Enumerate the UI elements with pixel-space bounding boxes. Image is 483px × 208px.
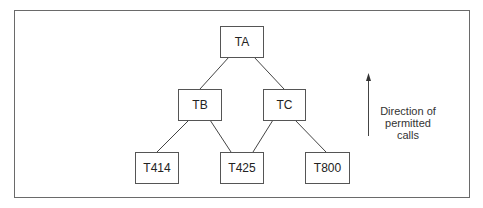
legend-line-3: calls bbox=[380, 129, 436, 141]
edge-ta-tc bbox=[254, 57, 284, 89]
node-label: T425 bbox=[228, 161, 255, 175]
edge-tb-t425 bbox=[210, 120, 231, 152]
node-label: T414 bbox=[143, 161, 170, 175]
node-label: T800 bbox=[314, 161, 341, 175]
node-t414: T414 bbox=[135, 152, 179, 184]
legend-line-1: Direction of bbox=[380, 105, 436, 117]
node-label: TC bbox=[277, 98, 293, 112]
arrow-up-icon bbox=[366, 73, 371, 136]
node-t800: T800 bbox=[305, 152, 350, 184]
direction-legend: Direction of permitted calls bbox=[380, 105, 436, 141]
node-tb: TB bbox=[178, 89, 222, 121]
node-label: TB bbox=[192, 98, 207, 112]
edge-tc-t425 bbox=[253, 120, 273, 152]
legend-line-2: permitted bbox=[380, 117, 436, 129]
node-label: TA bbox=[235, 35, 249, 49]
node-t425: T425 bbox=[220, 152, 264, 184]
edge-tb-t414 bbox=[157, 120, 189, 152]
node-tc: TC bbox=[263, 89, 306, 121]
edge-tc-t800 bbox=[295, 120, 326, 152]
edge-ta-tb bbox=[200, 57, 229, 89]
node-ta: TA bbox=[220, 26, 264, 58]
